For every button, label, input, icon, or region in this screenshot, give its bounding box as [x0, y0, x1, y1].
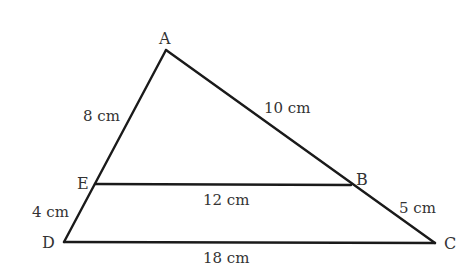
triangle-diagram: A E D B C 8 cm 4 cm 10 cm 5 cm 12 cm 18 …	[0, 0, 473, 278]
vertex-label-a: A	[158, 29, 171, 48]
edge-DC	[64, 242, 435, 243]
length-label-eb: 12 cm	[203, 191, 249, 209]
length-label-bc: 5 cm	[399, 199, 436, 217]
vertex-label-e: E	[77, 174, 89, 193]
vertex-label-d: D	[42, 233, 55, 252]
vertex-label-c: C	[444, 234, 456, 253]
length-label-dc: 18 cm	[203, 249, 249, 267]
length-label-ab: 10 cm	[264, 99, 310, 117]
vertex-label-b: B	[356, 170, 368, 189]
length-label-ed: 4 cm	[32, 203, 69, 221]
edge-AC	[166, 50, 435, 243]
edge-AD	[64, 50, 166, 242]
length-label-ae: 8 cm	[83, 107, 120, 125]
edge-EB	[95, 184, 351, 185]
